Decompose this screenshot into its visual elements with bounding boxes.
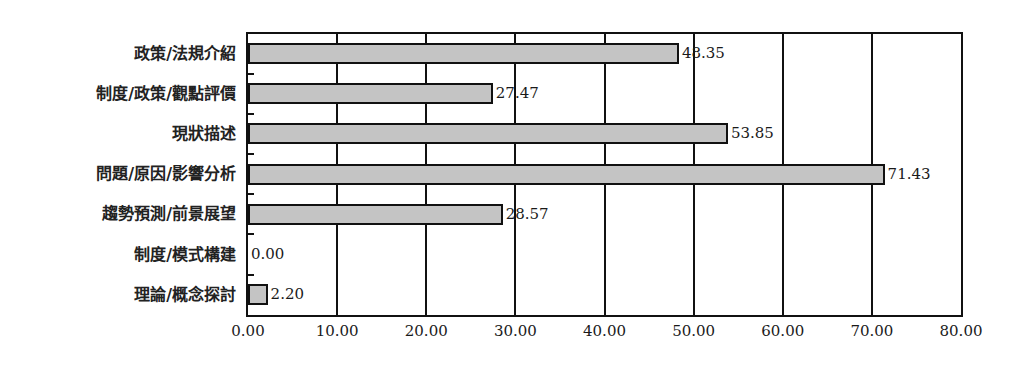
value-label: 53.85: [731, 123, 774, 144]
category-label: 趨勢預測/前景展望: [102, 204, 236, 224]
bar: [248, 123, 728, 144]
x-tick-label: 30.00: [494, 322, 537, 340]
category-label: 制度/政策/觀點評價: [96, 84, 236, 104]
x-tick-label: 80.00: [940, 322, 983, 340]
plot-area: [246, 32, 963, 317]
x-tick-label: 60.00: [761, 322, 804, 340]
bar: [248, 43, 679, 64]
bar: [248, 204, 503, 225]
category-label: 政策/法規介紹: [134, 44, 236, 64]
category-tick: [248, 153, 254, 155]
bar: [248, 83, 493, 104]
horizontal-bar-chart: 政策/法規介紹制度/政策/觀點評價現狀描述問題/原因/影響分析趨勢預測/前景展望…: [0, 0, 1026, 365]
category-tick: [248, 274, 254, 276]
category-label: 理論/概念探討: [134, 285, 236, 305]
value-label: 2.20: [271, 284, 304, 305]
value-label: 48.35: [682, 43, 725, 64]
category-tick: [248, 73, 254, 75]
category-label: 問題/原因/影響分析: [96, 164, 236, 184]
x-tick-label: 0.00: [231, 322, 264, 340]
x-tick-label: 20.00: [405, 322, 448, 340]
value-label: 71.43: [888, 164, 931, 185]
x-tick-label: 10.00: [316, 322, 359, 340]
x-tick-label: 50.00: [672, 322, 715, 340]
bar: [248, 284, 268, 305]
category-label: 制度/模式構建: [134, 245, 236, 265]
x-tick-label: 70.00: [850, 322, 893, 340]
x-tick-label: 40.00: [583, 322, 626, 340]
category-tick: [248, 113, 254, 115]
value-label: 28.57: [506, 204, 549, 225]
category-label: 現狀描述: [172, 124, 236, 144]
value-label: 0.00: [251, 244, 284, 265]
category-tick: [248, 233, 254, 235]
bar: [248, 164, 885, 185]
value-label: 27.47: [496, 83, 539, 104]
category-tick: [248, 193, 254, 195]
